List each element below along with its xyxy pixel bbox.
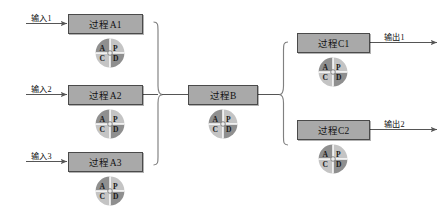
pdca-letter-d: D xyxy=(226,126,231,134)
pdca-letter-a: A xyxy=(100,45,105,53)
left-brace xyxy=(154,22,163,165)
pdca-letter-p: P xyxy=(113,116,118,124)
pdca-wheel-icon xyxy=(318,57,348,87)
pdca-letter-c: C xyxy=(100,126,105,134)
pdca-icon-b: A P C D xyxy=(208,109,238,139)
pdca-letter-c: C xyxy=(323,161,328,169)
process-box-c1[interactable]: 过程C1 xyxy=(297,33,370,53)
pdca-letter-a: A xyxy=(100,183,105,191)
pdca-icon-c2: A P C D xyxy=(318,144,348,174)
pdca-letter-p: P xyxy=(113,183,118,191)
pdca-letter-p: P xyxy=(226,116,231,124)
process-box-c2[interactable]: 过程C2 xyxy=(297,120,370,140)
output-label-1: 输出1 xyxy=(384,30,405,42)
process-box-a3[interactable]: 过程A3 xyxy=(68,152,143,172)
pdca-letter-d: D xyxy=(113,126,118,134)
pdca-icon-a2: A P C D xyxy=(95,109,125,139)
pdca-letter-c: C xyxy=(100,193,105,201)
pdca-icon-c1: A P C D xyxy=(318,57,348,87)
diagram-canvas: 输入1 输入2 输入3 输出1 输出2 过程A1 过程A2 过程A3 过程B 过… xyxy=(0,0,445,212)
process-box-a1[interactable]: 过程A1 xyxy=(68,14,143,34)
pdca-letter-p: P xyxy=(336,64,341,72)
pdca-wheel-icon xyxy=(95,109,125,139)
pdca-letter-a: A xyxy=(213,116,218,124)
output-label-2: 输出2 xyxy=(384,117,405,129)
pdca-letter-c: C xyxy=(100,55,105,63)
pdca-wheel-icon xyxy=(208,109,238,139)
pdca-icon-a3: A P C D xyxy=(95,176,125,206)
pdca-letter-d: D xyxy=(336,74,341,82)
process-box-b[interactable]: 过程B xyxy=(188,85,258,105)
pdca-letter-p: P xyxy=(113,45,118,53)
input-label-1: 输入1 xyxy=(31,11,52,23)
pdca-letter-c: C xyxy=(213,126,218,134)
pdca-wheel-icon xyxy=(318,144,348,174)
connector-layer xyxy=(0,0,445,212)
pdca-letter-d: D xyxy=(336,161,341,169)
pdca-icon-a1: A P C D xyxy=(95,38,125,68)
input-label-3: 输入3 xyxy=(31,149,52,161)
pdca-letter-a: A xyxy=(100,116,105,124)
input-label-2: 输入2 xyxy=(31,82,52,94)
right-brace xyxy=(280,42,289,145)
pdca-letter-a: A xyxy=(323,64,328,72)
pdca-letter-c: C xyxy=(323,74,328,82)
pdca-wheel-icon xyxy=(95,176,125,206)
pdca-letter-d: D xyxy=(113,193,118,201)
pdca-letter-d: D xyxy=(113,55,118,63)
pdca-letter-p: P xyxy=(336,151,341,159)
process-box-a2[interactable]: 过程A2 xyxy=(68,85,143,105)
pdca-wheel-icon xyxy=(95,38,125,68)
pdca-letter-a: A xyxy=(323,151,328,159)
